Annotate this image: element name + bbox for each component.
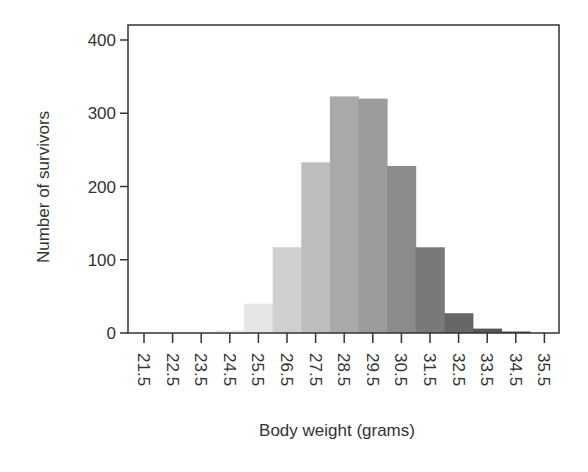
x-tick-label: 22.5	[163, 353, 182, 386]
bar-29.5	[359, 99, 388, 333]
x-tick-label: 27.5	[306, 353, 325, 386]
y-tick-label: 400	[88, 31, 116, 50]
x-tick-label: 25.5	[248, 353, 267, 386]
x-tick-label: 28.5	[334, 353, 353, 386]
y-tick-label: 200	[88, 178, 116, 197]
x-tick-label: 35.5	[534, 353, 553, 386]
y-tick-label: 0	[107, 324, 116, 343]
bar-27.5	[301, 162, 330, 333]
x-tick-label: 21.5	[134, 353, 153, 386]
bars-group	[216, 96, 531, 333]
x-axis-title: Body weight (grams)	[259, 421, 415, 440]
x-tick-label: 26.5	[277, 353, 296, 386]
x-tick-label: 33.5	[477, 353, 496, 386]
y-axis: 0100200300400	[88, 31, 128, 343]
x-tick-label: 24.5	[220, 353, 239, 386]
x-tick-label: 34.5	[506, 353, 525, 386]
y-axis-title: Number of survivors	[34, 111, 53, 263]
x-tick-label: 31.5	[420, 353, 439, 386]
bar-30.5	[387, 166, 416, 333]
x-axis: 21.522.523.524.525.526.527.528.529.530.5…	[134, 333, 553, 386]
bar-32.5	[444, 313, 473, 333]
x-tick-label: 23.5	[191, 353, 210, 386]
y-tick-label: 100	[88, 251, 116, 270]
bar-26.5	[273, 247, 302, 333]
histogram-chart: 0100200300400 21.522.523.524.525.526.527…	[0, 0, 588, 472]
x-tick-label: 30.5	[391, 353, 410, 386]
x-tick-label: 32.5	[449, 353, 468, 386]
bar-28.5	[330, 96, 359, 333]
bar-31.5	[416, 247, 445, 333]
y-tick-label: 300	[88, 104, 116, 123]
bar-25.5	[244, 304, 273, 333]
x-tick-label: 29.5	[363, 353, 382, 386]
